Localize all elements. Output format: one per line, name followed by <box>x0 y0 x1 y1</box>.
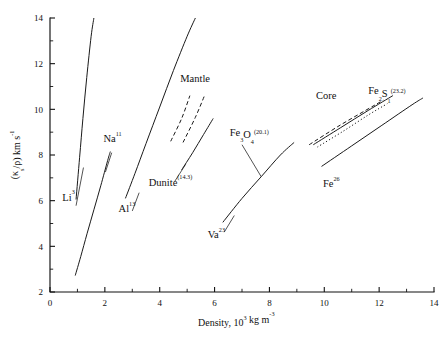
y-tick-label: 6 <box>39 196 44 206</box>
y-tick-label: 14 <box>34 13 44 23</box>
x-tick-label: 8 <box>267 298 272 308</box>
chart-figure: 024681012142468101214 Li3Na11Al13MantleD… <box>0 0 445 350</box>
x-tick-label: 14 <box>430 298 440 308</box>
y-tick-label: 4 <box>39 242 44 252</box>
series-label-mantle: Mantle <box>180 73 210 84</box>
x-tick-label: 10 <box>320 298 330 308</box>
x-tick-label: 12 <box>375 298 384 308</box>
series-label-core: Core <box>316 90 337 101</box>
x-tick-label: 0 <box>48 298 53 308</box>
y-tick-label: 12 <box>34 59 43 69</box>
y-tick-label: 2 <box>39 287 44 297</box>
x-tick-label: 6 <box>212 298 217 308</box>
x-tick-label: 2 <box>103 298 108 308</box>
y-tick-label: 10 <box>34 105 44 115</box>
chart-plot-area: 024681012142468101214 Li3Na11Al13MantleD… <box>0 0 445 350</box>
y-tick-label: 8 <box>39 150 44 160</box>
x-tick-label: 4 <box>157 298 162 308</box>
